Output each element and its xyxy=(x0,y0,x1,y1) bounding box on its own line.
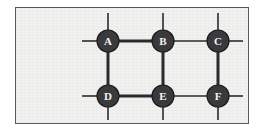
node-a[interactable]: A xyxy=(97,30,119,52)
graph-figure: ABCDEF xyxy=(0,0,263,132)
node-label-a: A xyxy=(104,35,112,47)
node-b[interactable]: B xyxy=(152,30,174,52)
node-label-e: E xyxy=(159,90,166,102)
graph-canvas: ABCDEF xyxy=(0,0,263,132)
node-label-d: D xyxy=(104,90,112,102)
node-d[interactable]: D xyxy=(97,85,119,107)
node-f[interactable]: F xyxy=(207,85,229,107)
node-c[interactable]: C xyxy=(207,30,229,52)
node-e[interactable]: E xyxy=(152,85,174,107)
node-label-f: F xyxy=(215,90,222,102)
node-label-b: B xyxy=(159,35,167,47)
node-label-c: C xyxy=(214,35,222,47)
